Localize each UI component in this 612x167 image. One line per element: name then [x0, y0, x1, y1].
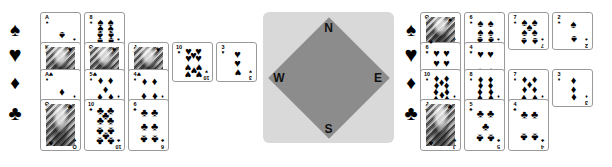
card-pip: ♥	[485, 49, 497, 60]
left-suit-marker-heart: ♥	[2, 44, 28, 66]
west-hand-card-heart-10[interactable]: 10♥10♥♥♥♥♥♥♥♥♥♥♥	[172, 42, 213, 82]
court-card-suit-mark: ♥	[66, 46, 74, 53]
left-suit-marker-diamond: ♦	[2, 73, 28, 92]
east-hand-card-diamond-3[interactable]: 3♦3♦♦♦♦	[552, 69, 593, 107]
card-pip: ♦	[56, 87, 68, 98]
east-hand-card-spade-2[interactable]: 2♠2♠♠♠	[552, 12, 593, 50]
card-pip-area: ♠♠	[553, 13, 592, 49]
court-card-suit-mark: ♣	[446, 103, 454, 110]
card-pip: ♠	[568, 34, 580, 45]
court-card-suit-mark: ♣	[427, 140, 435, 147]
compass-east-label: E	[370, 72, 386, 84]
card-pip: ♣	[485, 108, 497, 119]
left-suit-marker-club: ♣	[2, 103, 28, 123]
card-pip: ♦	[568, 92, 580, 103]
card-pip: ♣	[149, 121, 161, 132]
left-suit-marker-spade: ♠	[2, 20, 28, 39]
card-pip: ♣	[149, 134, 161, 145]
card-pip-area: ♣♣♣♣♣♣♣♣♣♣	[85, 100, 124, 150]
card-pip: ♣	[485, 133, 497, 144]
card-pip: ♣	[529, 109, 541, 120]
court-card-suit-mark: ♥	[110, 46, 118, 53]
card-pip: ♣	[529, 132, 541, 143]
card-pip-area: ♦♦♦	[553, 70, 592, 106]
court-card-suit-mark: ♥	[154, 46, 162, 53]
card-pip: ♠	[529, 36, 541, 47]
compass-south-label: S	[321, 123, 337, 135]
bridge-hand-diagram: ♠♥♦♣ A♠A♠♠8♠8♠♠♠♠♠♠♠♠♠K♥K♥♥♥Q♥Q♥♥♥J♥J♥♥♥…	[0, 0, 612, 167]
east-hand-card-spade-7[interactable]: 7♠7♠♠♠♠♠♠♠♠	[508, 12, 549, 50]
west-hand-card-club-Q[interactable]: Q♣Q♣♣♣	[40, 99, 81, 151]
compass-west-label: W	[271, 72, 287, 84]
card-pip-area: ♣♣♣♣♣	[465, 100, 504, 150]
card-pip-area: ♣♣♣♣	[509, 100, 548, 150]
card-pip-area: ♥♥♥	[217, 43, 256, 81]
card-pip: ♥	[232, 67, 244, 78]
card-pip-area: ♥♥♥♥♥♥♥♥♥♥	[173, 43, 212, 81]
card-pip: ♣	[149, 107, 161, 118]
court-card-suit-mark: ♥	[91, 71, 99, 78]
east-hand-card-club-5[interactable]: 5♣5♣♣♣♣♣♣	[464, 99, 505, 151]
card-pip-area: ♣♣♣♣♣♣	[129, 100, 168, 150]
card-pip: ♣	[105, 136, 117, 147]
court-card-suit-mark: ♥	[135, 71, 143, 78]
card-pip: ♣	[480, 121, 492, 132]
card-pip: ♠	[568, 19, 580, 30]
east-hand-card-club-4[interactable]: 4♣4♣♣♣♣♣	[508, 99, 549, 151]
card-pip: ♦	[149, 76, 161, 87]
court-card-suit-mark: ♥	[47, 71, 55, 78]
court-card-suit-mark: ♠	[446, 16, 454, 23]
east-hand-card-club-J[interactable]: J♣J♣♣♣	[420, 99, 461, 151]
card-pip: ♥	[193, 69, 205, 80]
west-hand-card-heart-3[interactable]: 3♥3♥♥♥♥	[216, 42, 257, 82]
court-card-suit-mark: ♣	[47, 140, 55, 147]
compass-north-label: N	[321, 22, 337, 34]
card-pip: ♣	[105, 115, 117, 126]
court-card-suit-mark: ♣	[66, 103, 74, 110]
west-hand-card-club-10[interactable]: 10♣10♣♣♣♣♣♣♣♣♣♣♣	[84, 99, 125, 151]
compass-rose: N W E S	[263, 12, 394, 143]
west-hand-card-club-6[interactable]: 6♣6♣♣♣♣♣♣♣	[128, 99, 169, 151]
left-suit-marker-column: ♠♥♦♣	[2, 0, 28, 167]
court-card-suit-mark: ♠	[427, 39, 435, 46]
card-pip-area: ♠♠♠♠♠♠♠	[509, 13, 548, 49]
card-pip: ♠	[56, 30, 68, 41]
